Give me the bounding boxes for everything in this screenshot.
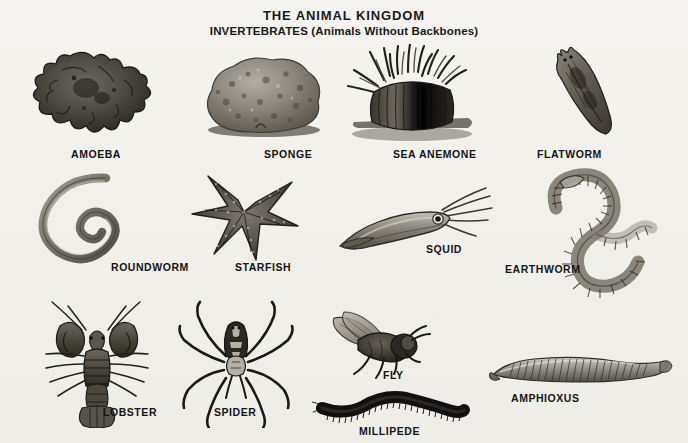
roundworm-figure: [32, 172, 152, 264]
sponge-figure: [196, 54, 332, 144]
roundworm-icon: [32, 172, 152, 264]
amoeba-icon: [28, 46, 158, 144]
sea-anemone-icon: [340, 44, 484, 144]
squid-figure: [334, 186, 494, 258]
specimen-label-lobster: LOBSTER: [103, 406, 157, 418]
poster-title-block: THE ANIMAL KINGDOM INVERTEBRATES (Animal…: [0, 8, 688, 39]
sea-anemone-figure: [340, 44, 484, 144]
specimen-label-roundworm: ROUNDWORM: [111, 261, 189, 273]
specimen-label-amphioxus: AMPHIOXUS: [511, 392, 580, 404]
millipede-icon: [312, 386, 472, 426]
fly-figure: [324, 308, 436, 382]
millipede-figure: [312, 386, 472, 426]
amphioxus-figure: [484, 352, 674, 392]
flatworm-figure: [528, 38, 648, 146]
earthworm-icon: [526, 168, 666, 298]
sponge-icon: [196, 54, 332, 144]
specimen-label-amoeba: AMOEBA: [71, 148, 121, 160]
starfish-icon: [182, 168, 306, 264]
invertebrates-poster: THE ANIMAL KINGDOM INVERTEBRATES (Animal…: [0, 0, 688, 443]
earthworm-figure: [526, 168, 666, 298]
page-subtitle: INVERTEBRATES (Animals Without Backbones…: [0, 24, 688, 39]
page-title: THE ANIMAL KINGDOM: [0, 8, 688, 24]
specimen-label-starfish: STARFISH: [235, 261, 291, 273]
specimen-label-flatworm: FLATWORM: [537, 148, 602, 160]
amphioxus-icon: [484, 352, 674, 392]
starfish-figure: [182, 168, 306, 264]
squid-icon: [334, 186, 494, 258]
specimen-label-earthworm: EARTHWORM: [505, 263, 581, 275]
flatworm-icon: [528, 38, 648, 146]
specimen-label-fly: FLY: [383, 369, 404, 381]
specimen-label-sea-anemone: SEA ANEMONE: [393, 148, 476, 160]
amoeba-figure: [28, 46, 158, 144]
specimen-label-millipede: MILLIPEDE: [359, 425, 420, 437]
specimen-label-sponge: SPONGE: [264, 148, 312, 160]
specimen-label-spider: SPIDER: [214, 406, 256, 418]
fly-icon: [324, 308, 436, 382]
specimen-label-squid: SQUID: [426, 243, 462, 255]
